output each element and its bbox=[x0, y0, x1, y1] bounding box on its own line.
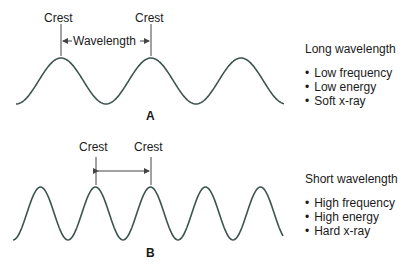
property-item: Hard x-ray bbox=[305, 224, 398, 238]
property-list: High frequency High energy Hard x-ray bbox=[305, 196, 398, 238]
long-wave-curve bbox=[16, 58, 284, 104]
info-long-wavelength: Long wavelength Low frequency Low energy… bbox=[305, 42, 396, 108]
property-item: High frequency bbox=[305, 196, 398, 210]
crest-label-b-left: Crest bbox=[79, 140, 108, 154]
crest-label-b-right: Crest bbox=[134, 140, 163, 154]
property-item: Soft x-ray bbox=[305, 94, 396, 108]
info-short-wavelength: Short wavelength High frequency High ene… bbox=[305, 172, 398, 238]
wavelength-label: Wavelength bbox=[73, 34, 136, 48]
crest-label-a-left: Crest bbox=[44, 11, 73, 25]
crest-label-a-right: Crest bbox=[135, 11, 164, 25]
property-item: High energy bbox=[305, 210, 398, 224]
panel-letter-b: B bbox=[146, 246, 155, 260]
property-list: Low frequency Low energy Soft x-ray bbox=[305, 66, 396, 108]
property-item: Low frequency bbox=[305, 66, 396, 80]
panel-letter-a: A bbox=[146, 109, 155, 123]
info-title: Short wavelength bbox=[305, 172, 398, 186]
short-wave-curve bbox=[13, 187, 283, 240]
info-title: Long wavelength bbox=[305, 42, 396, 56]
property-item: Low energy bbox=[305, 80, 396, 94]
